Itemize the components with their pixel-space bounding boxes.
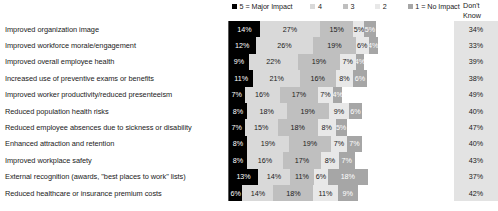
bar-segment-3: 17% [283, 152, 321, 168]
bar-segment-5: 9% [229, 54, 249, 70]
legend-item-2: 2 [375, 3, 386, 10]
bar-segment-4: 15% [245, 119, 278, 135]
segment-value: 19% [261, 140, 275, 147]
bar-segment-5: 6% [229, 185, 242, 201]
bar-segment-3: 19% [298, 54, 340, 70]
bar-segment-4: 19% [247, 136, 289, 152]
legend-label-5: 5 = Major Impact [240, 3, 293, 10]
bar-segment-1: 4% [356, 54, 365, 70]
bar-segment-3: 15% [320, 21, 353, 37]
bar-segment-1: 7% [339, 152, 355, 168]
bar-segment-5: 7% [229, 119, 245, 135]
segment-value: 18% [260, 108, 274, 115]
bar-segment-5: 12% [229, 37, 256, 53]
dont-know-value: 40% [454, 103, 498, 119]
bar-segment-5: 8% [229, 152, 247, 168]
bar-segment-5: 13% [229, 169, 258, 185]
bar-segment-1: 4% [333, 87, 342, 103]
segment-value: 4% [356, 58, 365, 65]
chart-row: Reduced population health risks8%18%19%9… [0, 103, 498, 119]
segment-value: 7% [343, 58, 353, 65]
row-label: Improved worker productivity/reduced pre… [0, 87, 228, 103]
chart-row: Improved overall employee health9%22%19%… [0, 54, 498, 70]
row-bar: 9%22%19%7%4% [228, 54, 450, 70]
bar-segment-2: 7% [340, 54, 356, 70]
segment-value: 7% [232, 91, 242, 98]
dont-know-value: 43% [454, 152, 498, 168]
bar-remainder [376, 21, 451, 37]
segment-value: 12% [235, 42, 249, 49]
row-label: Improved organization image [0, 21, 228, 37]
bar-segment-4: 21% [253, 70, 300, 86]
bar-segment-2: 6% [356, 37, 369, 53]
segment-value: 7% [349, 140, 359, 147]
segment-value: 11% [319, 190, 333, 197]
bar-remainder [358, 185, 450, 201]
row-bar: 11%21%16%8%6% [228, 70, 450, 86]
bar-segment-3: 19% [287, 103, 329, 119]
segment-value: 9% [234, 58, 244, 65]
bar-remainder [367, 70, 450, 86]
bar-segment-4: 16% [247, 152, 283, 168]
chart-row: Reduced healthcare or insurance premium … [0, 185, 498, 201]
dont-know-value: 37% [454, 169, 498, 185]
bar-remainder [368, 169, 450, 185]
row-bar: 8%18%19%9%6% [228, 103, 450, 119]
bar-segment-5: 7% [229, 87, 245, 103]
segment-value: 14% [267, 173, 281, 180]
bar-segment-3: 18% [273, 185, 313, 201]
segment-value: 8% [233, 157, 243, 164]
legend-label-3: 3 [350, 3, 354, 10]
bar-segment-2: 5% [353, 21, 364, 37]
legend-swatch-4 [310, 4, 315, 9]
segment-value: 19% [327, 42, 341, 49]
bar-segment-3: 17% [280, 87, 318, 103]
segment-value: 9% [334, 108, 344, 115]
bar-segment-1: 7% [347, 136, 363, 152]
bar-segment-5: 11% [229, 70, 253, 86]
segment-value: 5% [354, 26, 364, 33]
segment-value: 7% [342, 157, 352, 164]
segment-value: 14% [251, 190, 265, 197]
legend-swatch-3 [343, 4, 348, 9]
bar-segment-1: 6% [349, 103, 362, 119]
legend-item-1: 1 = No Impact [408, 3, 460, 10]
legend-swatch-1 [408, 4, 413, 9]
segment-value: 5% [365, 26, 375, 33]
dont-know-header-line2: Know [463, 11, 497, 21]
row-label: Improved overall employee health [0, 54, 228, 70]
dont-know-header-line1: Don't [463, 1, 497, 11]
row-bar: 8%19%19%7%7% [228, 136, 450, 152]
bar-segment-2: 7% [318, 87, 334, 103]
segment-value: 15% [254, 124, 268, 131]
chart-row: Improved workforce morale/engagement12%2… [0, 37, 498, 53]
chart-row: Improved workplace safety8%16%17%8%7%43% [0, 152, 498, 168]
bar-segment-3: 16% [300, 70, 336, 86]
bar-segment-2: 8% [321, 152, 339, 168]
segment-value: 19% [301, 108, 315, 115]
bar-remainder [362, 103, 450, 119]
segment-value: 4% [369, 42, 378, 49]
bar-segment-2: 8% [336, 70, 354, 86]
row-bar: 7%15%18%8%5% [228, 119, 450, 135]
bar-segment-4: 22% [249, 54, 298, 70]
segment-value: 8% [325, 157, 335, 164]
bar-segment-3: 18% [278, 119, 318, 135]
row-bar: 6%14%18%11%9% [228, 185, 450, 201]
legend-label-1: 1 = No Impact [415, 3, 459, 10]
segment-value: 8% [233, 140, 243, 147]
dont-know-value: 40% [454, 136, 498, 152]
dont-know-value: 38% [454, 70, 498, 86]
legend-label-4: 4 [318, 3, 322, 10]
row-label: External recognition (awards, "best plac… [0, 169, 228, 185]
segment-value: 22% [266, 58, 280, 65]
bar-segment-2: 9% [329, 103, 349, 119]
segment-value: 19% [312, 58, 326, 65]
bar-segment-4: 18% [247, 103, 287, 119]
bar-segment-2: 8% [318, 119, 336, 135]
bar-segment-2: 6% [314, 169, 327, 185]
dont-know-column-header: Don't Know [463, 1, 497, 20]
bar-segment-5: 8% [229, 103, 247, 119]
dont-know-value: 39% [454, 54, 498, 70]
segment-value: 21% [270, 75, 284, 82]
